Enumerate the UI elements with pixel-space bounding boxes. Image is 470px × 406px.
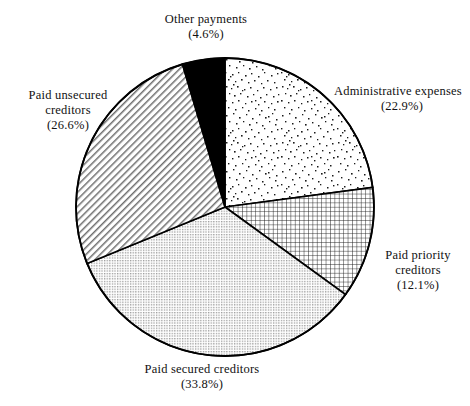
slice-label-paid-unsecured-creditors-name-line1: Paid unsecured (6, 88, 130, 103)
pie-chart-figure: Other payments (4.6%) Administrative exp… (0, 0, 470, 406)
slice-label-paid-secured-creditors: Paid secured creditors (33.8%) (112, 362, 292, 392)
slice-label-paid-unsecured-creditors-name-line2: creditors (6, 103, 130, 118)
slice-label-administrative-expenses: Administrative expenses (22.9%) (334, 84, 470, 114)
slice-label-paid-priority-creditors-value: (12.1%) (368, 278, 468, 293)
slice-label-administrative-expenses-name: Administrative expenses (334, 84, 470, 99)
slice-label-paid-unsecured-creditors-value: (26.6%) (6, 118, 130, 133)
slice-label-other-payments-name: Other payments (136, 12, 276, 27)
pie-slice-administrative-expenses[interactable] (225, 58, 373, 207)
slice-label-administrative-expenses-value: (22.9%) (334, 99, 470, 114)
slice-label-other-payments-value: (4.6%) (136, 27, 276, 42)
slice-label-paid-secured-creditors-value: (33.8%) (112, 377, 292, 392)
slice-label-other-payments: Other payments (4.6%) (136, 12, 276, 42)
pie-chart-svg (0, 0, 470, 406)
slice-label-paid-priority-creditors: Paid priority creditors (12.1%) (368, 248, 468, 293)
slice-label-paid-priority-creditors-name-line1: Paid priority (368, 248, 468, 263)
slice-label-paid-priority-creditors-name-line2: creditors (368, 263, 468, 278)
slice-label-paid-secured-creditors-name: Paid secured creditors (112, 362, 292, 377)
slice-label-paid-unsecured-creditors: Paid unsecured creditors (26.6%) (6, 88, 130, 133)
